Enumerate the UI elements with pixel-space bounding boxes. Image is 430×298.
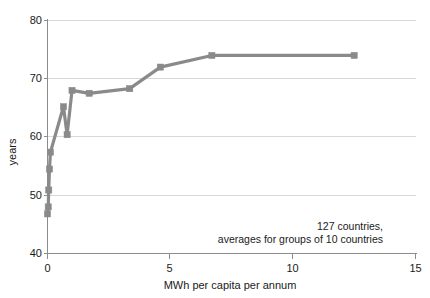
data-point [44, 211, 50, 217]
data-point [209, 52, 215, 58]
data-point [60, 104, 66, 110]
y-tick-label-60: 60 [30, 130, 42, 142]
data-point [86, 90, 92, 96]
x-tick-label-0: 0 [44, 262, 50, 274]
data-point [47, 149, 53, 155]
x-tick-label-5: 5 [166, 262, 172, 274]
x-tick-label-10: 10 [286, 262, 298, 274]
data-point [127, 86, 133, 92]
data-point [64, 132, 70, 138]
x-tick-label-15: 15 [409, 262, 421, 274]
y-tick-label-70: 70 [30, 72, 42, 84]
data-point [69, 87, 75, 93]
y-tick-label-80: 80 [30, 14, 42, 26]
x-axis-title: MWh per capita per annum [164, 279, 297, 291]
data-point [45, 204, 51, 210]
data-point [46, 187, 52, 193]
data-point [46, 166, 52, 172]
data-point [351, 52, 357, 58]
annotation-line-1: 127 countries, [317, 220, 383, 232]
y-tick-label-50: 50 [30, 189, 42, 201]
chart-container: 80 70 60 50 40 0 5 10 15 years MWh per c… [0, 0, 430, 298]
y-tick-label-40: 40 [30, 247, 42, 259]
data-point [157, 64, 163, 70]
y-axis-title: years [6, 138, 18, 165]
line-chart: 80 70 60 50 40 0 5 10 15 years MWh per c… [0, 0, 430, 298]
annotation-line-2: averages for groups of 10 countries [218, 233, 383, 245]
